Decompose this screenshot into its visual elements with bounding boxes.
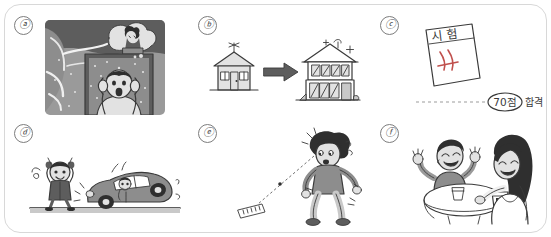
panel-c: ⓒ 시 험 (378, 14, 543, 114)
panel-label-c: ⓒ (380, 16, 399, 35)
illustration-man-spots-wallet (218, 128, 366, 226)
illustration-child-waving-at-car (30, 138, 182, 220)
panel-label-e: ⓔ (198, 124, 217, 143)
panel-d: ⓓ (12, 120, 184, 228)
illustration-exam-paper-pass: 시 험 70점 합격 (410, 22, 535, 112)
panel-label-f: ⓕ (380, 124, 399, 143)
panel-label-a: ⓐ (14, 16, 33, 35)
panel-a: ⓐ (12, 14, 184, 114)
score-bubble: 70점 (488, 93, 522, 111)
illustration-two-people-talking (408, 126, 540, 226)
result-text: 합격 (525, 96, 543, 108)
panel-label-b: ⓑ (198, 16, 217, 35)
child-waving (32, 158, 75, 211)
panel-f: ⓕ (378, 120, 543, 228)
score-text: 70점 (493, 96, 516, 108)
panel-e: ⓔ (196, 120, 368, 228)
big-house (296, 39, 360, 100)
panel-b: ⓑ (196, 14, 368, 114)
car (74, 162, 180, 209)
wallet-on-ground (238, 204, 265, 218)
small-house (210, 43, 258, 90)
transform-arrow (264, 63, 298, 81)
exam-paper: 시 험 (426, 24, 480, 86)
man-walking (302, 128, 362, 225)
illustration-storm-disaster-shocked-man (45, 20, 165, 115)
panel-label-d: ⓓ (14, 124, 33, 143)
cup-left (452, 188, 464, 200)
illustration-sheet: ⓐ (0, 0, 551, 237)
illustration-house-upgrade-arrow (208, 36, 360, 110)
